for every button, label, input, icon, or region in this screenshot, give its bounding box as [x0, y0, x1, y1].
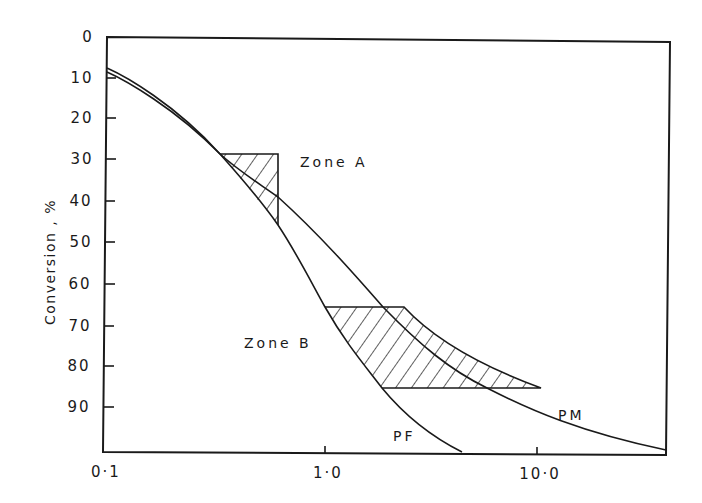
y-tick-label: 40 — [69, 192, 92, 210]
x-tick-label: 10·0 — [519, 465, 560, 483]
y-tick-label: 0 — [82, 28, 94, 46]
zone-a-region — [200, 140, 300, 240]
zone-b-label: Zone B — [244, 335, 312, 351]
x-tick-label: 0·1 — [91, 463, 121, 481]
y-tick-label: 10 — [70, 69, 93, 87]
zone-b-region — [300, 290, 560, 400]
zone-a-label: Zone A — [300, 154, 368, 170]
x-axis-tick-labels: 0·1 1·0 10·0 — [91, 463, 561, 483]
y-tick-label: 20 — [70, 109, 93, 127]
x-tick-label: 1·0 — [313, 464, 343, 482]
pm-label: PM — [558, 407, 585, 423]
y-tick-label: 30 — [70, 150, 93, 168]
y-tick-label: 80 — [67, 357, 90, 375]
y-axis-tick-labels: 0 10 20 30 40 50 60 70 80 90 — [67, 28, 93, 416]
conversion-chart: 0 10 20 30 40 50 60 70 80 90 0·1 1·0 10·… — [0, 0, 702, 503]
pf-curve — [107, 68, 462, 452]
y-tick-label: 60 — [68, 275, 91, 293]
y-tick-label: 70 — [68, 317, 91, 335]
y-axis-title: Conversion , % — [42, 199, 58, 325]
y-tick-label: 90 — [67, 398, 90, 416]
pf-label: PF — [393, 428, 416, 444]
y-tick-label: 50 — [69, 233, 92, 251]
